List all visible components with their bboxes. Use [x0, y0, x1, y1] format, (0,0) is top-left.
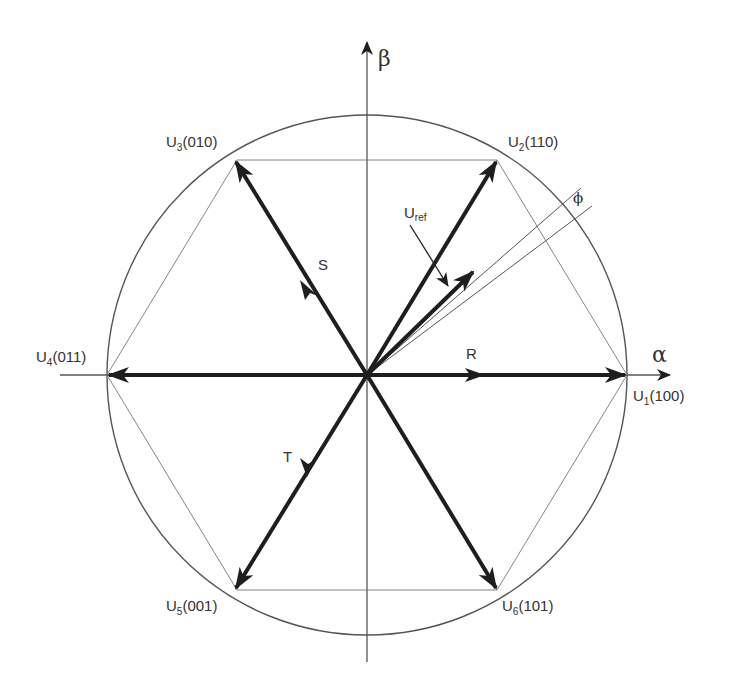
phase-label-s: S — [318, 256, 328, 273]
vector-u5 — [236, 375, 367, 588]
vector-label-u6: U6(101) — [502, 597, 553, 617]
space-vector-diagram: β α U3(010) U2(110) U4(011) U1(100) U5(0… — [0, 0, 731, 682]
alpha-axis-label: α — [652, 342, 667, 367]
angle-lines — [367, 188, 592, 375]
vector-u6 — [367, 375, 496, 588]
reference-pointer-arrow — [410, 225, 448, 286]
vector-label-u5: U5(001) — [166, 597, 217, 617]
beta-axis-label: β — [378, 46, 391, 71]
vector-label-u4: U4(011) — [36, 348, 86, 368]
vector-label-u2: U2(110) — [508, 133, 558, 153]
phase-label-r: R — [466, 345, 477, 362]
vector-label-u1: U1(100) — [633, 387, 684, 407]
phase-label-t: T — [283, 448, 292, 465]
vector-u2 — [367, 162, 496, 375]
angle-label-phi: ϕ — [573, 189, 583, 207]
reference-label: Uref — [404, 204, 427, 223]
vector-u3 — [236, 162, 367, 375]
vector-label-u3: U3(010) — [166, 133, 217, 153]
